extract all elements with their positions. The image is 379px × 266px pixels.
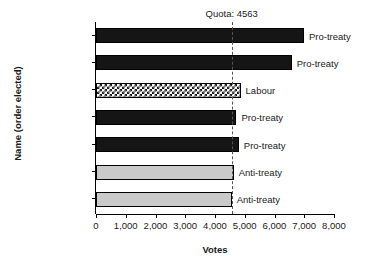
bar <box>96 137 239 152</box>
bar <box>96 83 241 98</box>
plot-area: 1. HoganPro-treaty2. Ó MáillePro-treaty3… <box>96 22 334 213</box>
bar-row: 7. FahyAnti-treaty <box>96 186 334 213</box>
bar-annotation: Pro-treaty <box>309 31 351 42</box>
x-axis-tick-label: 8,000 <box>322 220 346 231</box>
bar <box>96 55 292 70</box>
bar-row: 4. WhelehanPro-treaty <box>96 104 334 131</box>
bar <box>96 192 232 207</box>
x-axis-title: Votes <box>96 244 334 255</box>
y-axis-title: Name (order elected) <box>12 39 23 189</box>
bar-annotation: Pro-treaty <box>241 112 283 123</box>
bar-annotation: Pro-treaty <box>297 58 339 69</box>
bar <box>96 28 304 43</box>
x-axis-tick <box>126 214 127 218</box>
bar <box>96 110 236 125</box>
x-axis-tick <box>275 214 276 218</box>
bar-row: 2. Ó MáillePro-treaty <box>96 49 334 76</box>
bar-row: 1. HoganPro-treaty <box>96 22 334 49</box>
quota-reference-line <box>232 22 233 214</box>
x-axis-tick <box>334 214 335 218</box>
x-axis-tick-label: 5,000 <box>233 220 257 231</box>
x-axis-tick-label: 0 <box>93 220 98 231</box>
x-axis-tick-label: 3,000 <box>173 220 197 231</box>
bar-annotation: Anti-treaty <box>239 167 282 178</box>
bar-row: 3. O’ConnellLabour <box>96 77 334 104</box>
bar-annotation: Labour <box>246 85 276 96</box>
votes-bar-chart: Name (order elected) Votes 1. HoganPro-t… <box>0 0 379 266</box>
x-axis-tick-label: 4,000 <box>203 220 227 231</box>
x-axis-tick <box>215 214 216 218</box>
x-axis-tick-label: 1,000 <box>114 220 138 231</box>
bar-row: 6. CusackAnti-treaty <box>96 158 334 185</box>
x-axis-tick <box>245 214 246 218</box>
bar-annotation: Pro-treaty <box>244 140 286 151</box>
x-axis-tick-label: 7,000 <box>292 220 316 231</box>
x-axis-tick <box>156 214 157 218</box>
bar <box>96 165 234 180</box>
bar-row: 5. NichollsPro-treaty <box>96 131 334 158</box>
x-axis-tick <box>185 214 186 218</box>
x-axis-tick <box>304 214 305 218</box>
bar-annotation: Anti-treaty <box>237 194 280 205</box>
x-axis-tick-label: 2,000 <box>144 220 168 231</box>
x-axis-tick-label: 6,000 <box>263 220 287 231</box>
quota-label: Quota: 4563 <box>206 8 258 19</box>
x-axis-tick <box>96 214 97 218</box>
